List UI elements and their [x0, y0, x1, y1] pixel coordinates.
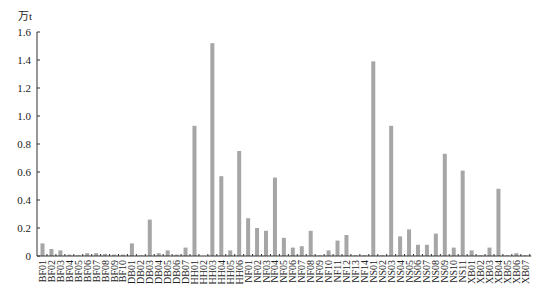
bar-NF02: [255, 228, 259, 256]
y-tick-label: 0.6: [17, 166, 31, 178]
bar-chart: 万t 00.20.40.60.81.01.21.41.6 BF01BF02BF0…: [0, 0, 545, 298]
bar-NS07: [425, 245, 429, 256]
y-axis: 00.20.40.60.81.01.21.41.6: [17, 26, 40, 262]
bar-NF08: [309, 231, 313, 256]
bar-HH01: [192, 126, 196, 256]
bar-NF06: [291, 248, 295, 256]
bar-NS06: [416, 245, 420, 256]
bar-NF10: [327, 250, 331, 256]
bar-DB07: [184, 248, 188, 256]
bar-NS08: [434, 234, 438, 256]
bar-HH04: [219, 176, 223, 256]
bar-BF03: [58, 250, 62, 256]
y-tick-label: 1.4: [17, 54, 31, 66]
bar-NF11: [336, 241, 340, 256]
x-tick-label: XB07: [520, 260, 531, 284]
bar-HH06: [237, 151, 241, 256]
bar-BF01: [41, 243, 45, 256]
bar-DB01: [130, 243, 134, 256]
y-tick-label: 0: [26, 250, 32, 262]
bar-NF01: [246, 218, 250, 256]
bar-XB04: [496, 189, 500, 256]
bar-NS09: [443, 154, 447, 256]
y-tick-label: 0.8: [17, 138, 31, 150]
y-tick-label: 0.2: [17, 222, 31, 234]
y-unit-label: 万t: [18, 10, 32, 22]
y-tick-label: 1.0: [17, 110, 31, 122]
bar-NF05: [282, 238, 286, 256]
bar-NF04: [273, 178, 277, 256]
bar-NF12: [344, 235, 348, 256]
bar-NS04: [398, 236, 402, 256]
bar-DB05: [166, 250, 170, 256]
bar-NS01: [371, 61, 375, 256]
bar-NS05: [407, 229, 411, 256]
bar-XB03: [488, 248, 492, 256]
bar-NF07: [300, 246, 304, 256]
bars: [41, 43, 528, 256]
y-tick-label: 1.6: [17, 26, 31, 38]
bar-HH03: [210, 43, 214, 256]
bar-NS03: [389, 126, 393, 256]
bar-DB03: [148, 220, 152, 256]
bar-NF03: [264, 231, 268, 256]
y-tick-label: 1.2: [17, 82, 31, 94]
bar-NS10: [452, 248, 456, 256]
bar-HH05: [228, 250, 232, 256]
bar-NS11: [461, 171, 465, 256]
y-tick-label: 0.4: [17, 194, 31, 206]
x-axis: BF01BF02BF03BF04BF05BF06BF07BF08BF09BF10…: [37, 254, 531, 284]
bar-BF02: [49, 249, 53, 256]
bar-XB01: [470, 250, 474, 256]
